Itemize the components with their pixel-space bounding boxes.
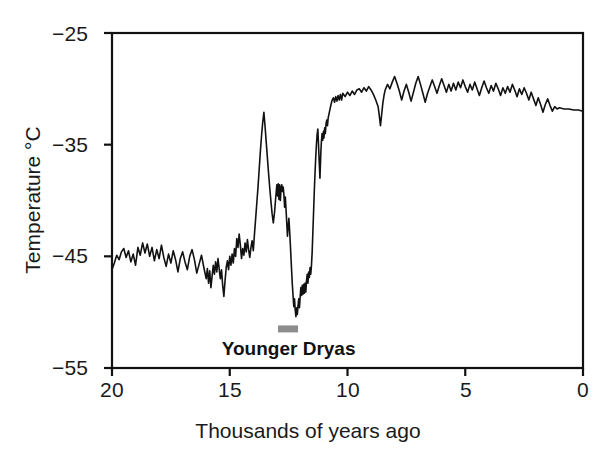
y-tick-label-minus45: −45 — [52, 244, 88, 268]
y-tick-label-minus35: −35 — [52, 133, 88, 157]
y-axis-label-text: Temperature °C — [21, 126, 45, 273]
x-tick-label-15: 15 — [218, 378, 242, 402]
temperature-chart-figure: Temperature °C −25 −35 −45 −55 20 15 10 … — [0, 0, 616, 459]
x-tick-label-5: 5 — [460, 378, 472, 402]
younger-dryas-interval-bar — [278, 325, 298, 332]
plot-frame — [112, 33, 583, 368]
x-tick-label-10: 10 — [336, 378, 360, 402]
chart-plot-area — [0, 0, 616, 459]
axis-frame — [112, 33, 583, 368]
y-tick-label-minus25: −25 — [52, 22, 88, 46]
x-axis-label: Thousands of years ago — [0, 419, 616, 443]
younger-dryas-annotation-label: Younger Dryas — [0, 338, 597, 360]
x-tick-label-0: 0 — [577, 378, 589, 402]
x-tick-label-20: 20 — [100, 378, 124, 402]
annotation-bar-group — [278, 325, 298, 332]
